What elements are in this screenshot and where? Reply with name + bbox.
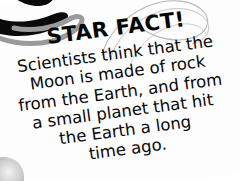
fact-text-block: STAR FACT! Scientists think that the Moo…	[0, 0, 240, 181]
star-fact-callout: STAR FACT! Scientists think that the Moo…	[0, 0, 240, 181]
